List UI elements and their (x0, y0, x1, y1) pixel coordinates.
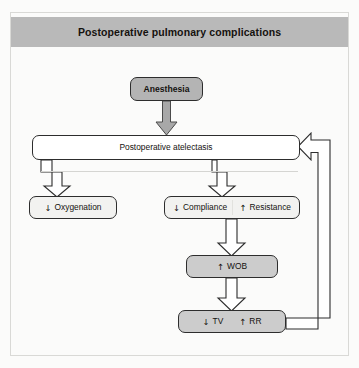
wob-item: ↑ WOB (217, 262, 247, 272)
node-wob: ↑ WOB (186, 255, 278, 278)
node-oxygenation: ↓ Oxygenation (29, 196, 117, 219)
node-rr-label: RR (249, 317, 261, 325)
node-compliance-label: Compliance (183, 203, 227, 211)
node-oxygenation-label: Oxygenation (55, 203, 102, 211)
tv-item: ↓ TV (203, 317, 224, 327)
node-compliance-resistance: ↓ Compliance ↑ Resistance (164, 196, 300, 219)
node-tv-rr: ↓ TV ↑ RR (178, 310, 286, 333)
figure-title-bar: Postoperative pulmonary complications (11, 17, 348, 47)
down-arrow-icon: ↓ (173, 203, 180, 213)
compliance-item: ↓ Compliance (173, 203, 227, 213)
page-title: Postoperative pulmonary complications (78, 26, 281, 38)
down-arrow-icon: ↓ (203, 317, 210, 327)
up-arrow-icon: ↑ (240, 203, 247, 213)
up-arrow-icon: ↑ (217, 262, 224, 272)
node-wob-label: WOB (227, 262, 247, 270)
up-arrow-icon: ↑ (239, 317, 246, 327)
figure-frame (10, 12, 349, 356)
node-postoperative-atelectasis: Postoperative atelectasis (32, 135, 300, 160)
node-tv-label: TV (213, 317, 224, 325)
down-arrow-icon: ↓ (44, 203, 51, 213)
resistance-item: ↑ Resistance (240, 203, 291, 213)
node-resistance-label: Resistance (250, 203, 291, 211)
node-anesthesia-label: Anesthesia (144, 85, 190, 94)
oxygenation-item: ↓ Oxygenation (44, 203, 101, 213)
rr-item: ↑ RR (239, 317, 261, 327)
node-atelectasis-label: Postoperative atelectasis (119, 143, 212, 151)
figure-container: Postoperative pulmonary complications (0, 0, 359, 368)
node-anesthesia: Anesthesia (130, 77, 203, 101)
